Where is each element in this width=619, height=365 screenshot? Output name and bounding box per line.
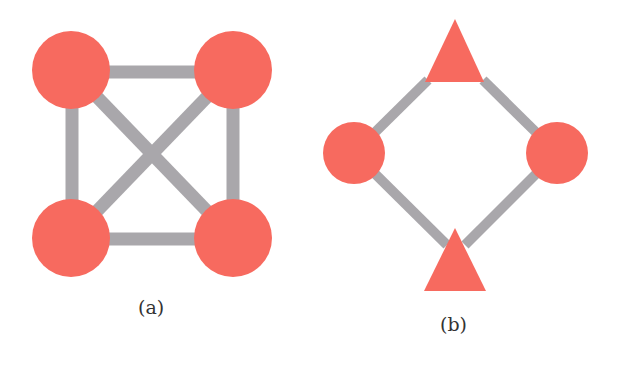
panel-a-label: (a) bbox=[138, 296, 164, 318]
panel-b-nodes bbox=[323, 19, 588, 291]
node-circle-a2 bbox=[194, 31, 272, 109]
node-circle-b3 bbox=[526, 122, 588, 184]
node-circle-a1 bbox=[32, 31, 110, 109]
node-triangle-b1 bbox=[425, 19, 484, 82]
figure-canvas bbox=[0, 0, 619, 365]
node-circle-a4 bbox=[194, 199, 272, 277]
panel-b-label: (b) bbox=[440, 313, 467, 335]
node-circle-b2 bbox=[323, 122, 385, 184]
node-circle-a3 bbox=[32, 199, 110, 277]
panel-b-edges bbox=[354, 80, 557, 245]
